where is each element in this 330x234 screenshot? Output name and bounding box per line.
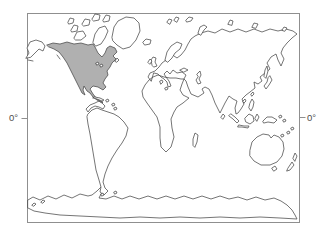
svalbard-2: [174, 17, 179, 22]
new-guinea: [263, 117, 277, 123]
australia: [250, 134, 284, 165]
sri-lanka: [221, 114, 225, 119]
figure-world-range-map: 0° 0°: [0, 0, 330, 234]
vancouver-island: [57, 55, 60, 59]
south-america: [87, 108, 128, 195]
great-lake-2: [100, 64, 103, 67]
great-britain: [151, 57, 157, 67]
lesser-antilles-2: [114, 107, 117, 110]
great-lake-1: [96, 62, 99, 65]
north-america-range: [47, 42, 117, 103]
arctic-island-3: [68, 18, 74, 24]
alaska: [26, 40, 45, 58]
hispaniola: [106, 99, 109, 102]
java: [238, 125, 249, 128]
sicily: [165, 87, 168, 90]
arctic-island-victoria: [74, 31, 86, 40]
arctic-island-baffin: [93, 26, 108, 46]
world-map-svg: [0, 0, 330, 234]
greenland: [112, 17, 140, 49]
madagascar: [193, 133, 198, 147]
new-zealand-north: [293, 153, 297, 161]
new-siberian-islands: [252, 23, 258, 28]
taiwan: [251, 92, 254, 96]
arctic-island-banks: [71, 25, 78, 32]
pacific-island-3: [287, 131, 290, 134]
hainan: [243, 99, 246, 103]
iceland: [143, 39, 151, 45]
equator-label-left: 0°: [2, 112, 18, 123]
arctic-island-1: [82, 19, 90, 26]
arctic-island-2: [92, 14, 100, 21]
pacific-island-2: [283, 119, 286, 122]
borneo: [245, 114, 254, 124]
pacific-island-5: [291, 127, 294, 130]
lesser-antilles-1: [112, 103, 115, 106]
falkland-islands: [114, 191, 117, 194]
sulawesi: [255, 114, 259, 121]
new-zealand-south: [287, 162, 294, 171]
japan: [264, 76, 272, 89]
svalbard-1: [167, 19, 172, 24]
pacific-island-1: [279, 115, 282, 118]
philippines: [249, 99, 254, 111]
equator-label-right: 0°: [307, 112, 325, 123]
aleutian-chain: [28, 60, 33, 61]
pacific-island-4: [281, 134, 284, 137]
franz-josef-land: [186, 17, 193, 22]
tasmania: [272, 166, 277, 171]
antarctic-peninsula-island: [101, 193, 104, 196]
afro-eurasia: [142, 29, 297, 152]
antarctica: [28, 187, 297, 219]
arctic-island-ellesmere: [103, 15, 110, 22]
sumatra: [229, 114, 239, 123]
severnaya-zemlya: [228, 20, 233, 25]
